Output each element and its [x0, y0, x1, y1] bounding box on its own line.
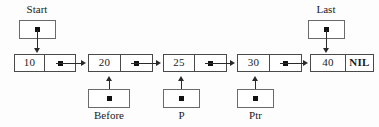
pointer-dot-icon	[253, 96, 258, 101]
pointer-label-last: Last	[303, 4, 349, 15]
link-arrow-shaft	[131, 63, 157, 64]
link-arrow-shaft	[280, 63, 304, 64]
node-data-cell: 25	[164, 55, 194, 71]
node-data-cell: 30	[238, 55, 269, 71]
pointer-label-ptr: Ptr	[232, 110, 279, 121]
link-arrow-head	[303, 60, 308, 66]
linked-list-diagram: Start Last 10 20 25 30	[0, 0, 379, 127]
pointer-label-p: P	[158, 110, 205, 121]
pointer-box-ptr	[237, 89, 274, 108]
node-data-cell: 10	[15, 55, 44, 71]
pointer-label-start: Start	[14, 4, 60, 15]
pointer-dot-icon	[107, 96, 112, 101]
connector-last-stem	[326, 30, 327, 49]
link-arrow-head	[156, 60, 161, 66]
node-data-cell: 40	[311, 55, 345, 71]
pointer-box-p	[163, 89, 200, 108]
connector-start-arrowhead	[34, 48, 40, 53]
link-arrow-shaft	[56, 63, 82, 64]
link-arrow-shaft	[205, 63, 231, 64]
node-nil-cell: NIL	[345, 55, 373, 71]
pointer-dot-icon	[179, 96, 184, 101]
node-data-cell: 20	[89, 55, 120, 71]
connector-last-arrowhead	[323, 48, 329, 53]
pointer-box-before	[88, 89, 130, 108]
link-arrow-head	[230, 60, 235, 66]
pointer-label-before: Before	[84, 110, 134, 121]
connector-start-stem	[37, 30, 38, 49]
link-arrow-head	[81, 60, 86, 66]
list-node: 40 NIL	[310, 54, 374, 72]
